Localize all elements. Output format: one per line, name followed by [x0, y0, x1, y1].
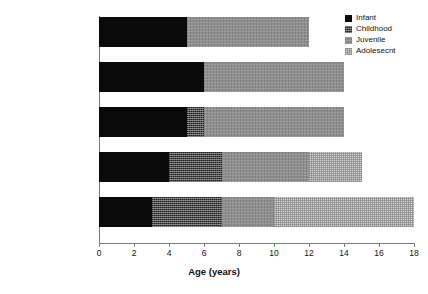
legend-label: Juvenile — [356, 35, 385, 45]
bar-segment-infant — [99, 62, 204, 92]
legend-label: Infant — [356, 13, 376, 23]
x-axis-tick-label: 18 — [399, 248, 428, 258]
bar-segment-childhood — [169, 152, 222, 182]
x-axis-tick-label: 8 — [224, 248, 254, 258]
x-axis-tick — [414, 243, 415, 247]
bar-segment-juvenile — [187, 17, 310, 47]
x-axis-tick-label: 0 — [84, 248, 114, 258]
x-axis-tick — [204, 243, 205, 247]
x-axis-tick-label: 10 — [259, 248, 289, 258]
bar-segment-childhood — [152, 197, 222, 227]
legend-label: Childhood — [356, 24, 392, 34]
x-axis-tick — [344, 243, 345, 247]
x-axis-line — [99, 243, 415, 244]
x-axis-title: Age (years) — [0, 266, 428, 277]
legend-item: Juvenile — [345, 35, 396, 45]
x-axis-tick-label: 12 — [294, 248, 324, 258]
legend-swatch-icon — [345, 15, 352, 22]
x-axis-tick — [274, 243, 275, 247]
bar-segment-infant — [99, 17, 187, 47]
x-axis-tick-label: 14 — [329, 248, 359, 258]
x-axis-tick-label: 16 — [364, 248, 394, 258]
bar-segment-childhood — [187, 107, 205, 137]
bar-segment-juvenile — [222, 152, 310, 182]
bar-segment-juvenile — [204, 107, 344, 137]
bar-segment-adolesecnt — [274, 197, 414, 227]
x-axis-tick — [239, 243, 240, 247]
x-axis-tick — [309, 243, 310, 247]
legend-label: Adolesecnt — [356, 46, 396, 56]
legend-swatch-icon — [345, 48, 352, 55]
legend-swatch-icon — [345, 37, 352, 44]
x-axis-tick-label: 4 — [154, 248, 184, 258]
x-axis-tick-label: 6 — [189, 248, 219, 258]
legend-swatch-icon — [345, 26, 352, 33]
x-axis-tick — [169, 243, 170, 247]
x-axis-tick — [134, 243, 135, 247]
legend-item: Adolesecnt — [345, 46, 396, 56]
bar-segment-infant — [99, 107, 187, 137]
legend-item: Infant — [345, 13, 396, 23]
bar-segment-juvenile — [204, 62, 344, 92]
chart-legend: InfantChildhoodJuvenileAdolesecnt — [345, 13, 396, 57]
x-axis-tick — [99, 243, 100, 247]
bar-segment-adolesecnt — [309, 152, 362, 182]
bar-segment-infant — [99, 197, 152, 227]
bar-segment-juvenile — [222, 197, 275, 227]
x-axis-tick — [379, 243, 380, 247]
x-axis-tick-label: 2 — [119, 248, 149, 258]
stacked-bar-chart: ChimpanzeeA. africanusEarly HomoLate Hom… — [0, 0, 428, 294]
bar-segment-infant — [99, 152, 169, 182]
legend-item: Childhood — [345, 24, 396, 34]
